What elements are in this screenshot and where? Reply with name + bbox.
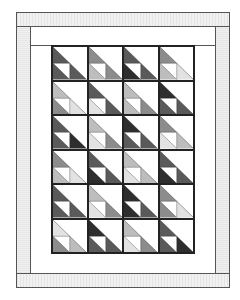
staircase-triangles-icon (89, 185, 123, 218)
staircase-triangles-icon (53, 47, 87, 80)
staircase-triangles-icon (124, 47, 158, 80)
quilt-block (52, 150, 88, 185)
quilt-block (123, 115, 159, 150)
staircase-triangles-icon (124, 185, 158, 218)
staircase-triangles-icon (160, 116, 194, 149)
staircase-triangles-icon (160, 185, 194, 218)
quilt-block (159, 150, 195, 185)
quilt-block (52, 219, 88, 254)
block-grid (51, 45, 195, 254)
staircase-triangles-icon (160, 82, 194, 115)
staircase-triangles-icon (89, 151, 123, 184)
quilt-block (123, 46, 159, 81)
inner-white-border (30, 27, 216, 274)
staircase-triangles-icon (160, 47, 194, 80)
staircase-triangles-icon (89, 82, 123, 115)
quilt-block (88, 150, 124, 185)
staircase-triangles-icon (53, 116, 87, 149)
staircase-triangles-icon (124, 220, 158, 253)
staircase-triangles-icon (89, 47, 123, 80)
staircase-triangles-icon (124, 151, 158, 184)
outer-border-top (17, 13, 229, 27)
staircase-triangles-icon (53, 82, 87, 115)
staircase-triangles-icon (53, 151, 87, 184)
staircase-triangles-icon (53, 185, 87, 218)
quilt-block (88, 219, 124, 254)
quilt-block (123, 184, 159, 219)
quilt-block (159, 184, 195, 219)
quilt-block (123, 219, 159, 254)
staircase-triangles-icon (160, 220, 194, 253)
quilt-block (52, 115, 88, 150)
quilt-block (88, 46, 124, 81)
outer-border-bottom (17, 273, 229, 287)
quilt-diagram (16, 12, 230, 288)
quilt-block (52, 46, 88, 81)
quilt-block (123, 150, 159, 185)
staircase-triangles-icon (124, 116, 158, 149)
staircase-triangles-icon (53, 220, 87, 253)
quilt-block (88, 81, 124, 116)
staircase-triangles-icon (89, 220, 123, 253)
quilt-block (159, 219, 195, 254)
quilt-block (88, 115, 124, 150)
staircase-triangles-icon (89, 116, 123, 149)
quilt-block (88, 184, 124, 219)
quilt-block (159, 81, 195, 116)
staircase-triangles-icon (124, 82, 158, 115)
quilt-block (159, 46, 195, 81)
quilt-block (123, 81, 159, 116)
staircase-triangles-icon (160, 151, 194, 184)
quilt-block (52, 184, 88, 219)
quilt-block (159, 115, 195, 150)
quilt-block (52, 81, 88, 116)
